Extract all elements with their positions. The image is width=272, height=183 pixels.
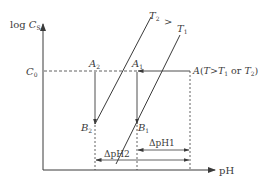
x-axis-label: pH xyxy=(219,165,234,176)
curve-compare-label: > xyxy=(164,16,172,27)
delta-ph1-label: ΔpH1 xyxy=(149,138,175,148)
delta-ph2-label: ΔpH2 xyxy=(104,149,130,159)
curve-t2 xyxy=(95,17,151,124)
curve-t1-label: T1 xyxy=(177,23,188,35)
curve-t2-label: T2 xyxy=(149,10,160,22)
y-axis-label: log CS xyxy=(10,19,41,31)
point-b1-label: B1 xyxy=(137,122,149,134)
point-b2-label: B2 xyxy=(80,122,92,134)
c0-label: C0 xyxy=(26,66,38,78)
solubility-ph-diagram: log CS C0 pH A(T>T1 or T2) A1 A2 B1 B2 T… xyxy=(0,0,272,183)
point-a1-label: A1 xyxy=(131,58,143,70)
point-a-label: A(T>T1 or T2) xyxy=(192,65,258,77)
point-a2-label: A2 xyxy=(88,58,100,70)
